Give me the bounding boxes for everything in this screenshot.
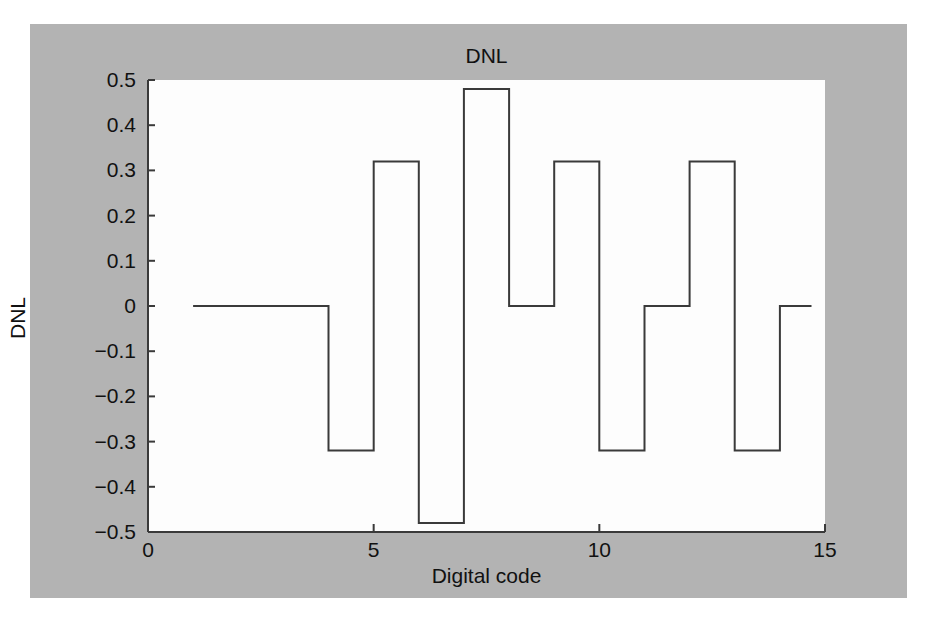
y-tick-label: −0.1 xyxy=(36,339,136,363)
y-tick-label: 0.2 xyxy=(36,204,136,228)
x-tick-label: 5 xyxy=(368,538,380,562)
x-tick-label: 10 xyxy=(588,538,611,562)
y-tick-label: −0.2 xyxy=(36,384,136,408)
y-tick-label: −0.4 xyxy=(36,475,136,499)
y-tick-label: 0 xyxy=(36,294,136,318)
x-axis-title: Digital code xyxy=(148,564,825,588)
axes-and-series xyxy=(30,24,907,598)
y-tick-marks xyxy=(148,80,155,532)
y-tick-label: 0.3 xyxy=(36,158,136,182)
x-tick-label: 15 xyxy=(813,538,836,562)
y-tick-label: −0.3 xyxy=(36,430,136,454)
x-tick-label: 0 xyxy=(142,538,154,562)
y-tick-label: 0.4 xyxy=(36,113,136,137)
dnl-step-series xyxy=(193,89,811,523)
x-tick-marks xyxy=(148,524,825,532)
y-tick-label: 0.1 xyxy=(36,249,136,273)
y-tick-label: 0.5 xyxy=(36,68,136,92)
y-tick-label: −0.5 xyxy=(36,520,136,544)
figure-canvas: DNL −0.5−0.4−0.3−0.2−0.100.10.20.30.40.5… xyxy=(30,24,907,598)
y-axis-title: DNL xyxy=(6,297,30,339)
